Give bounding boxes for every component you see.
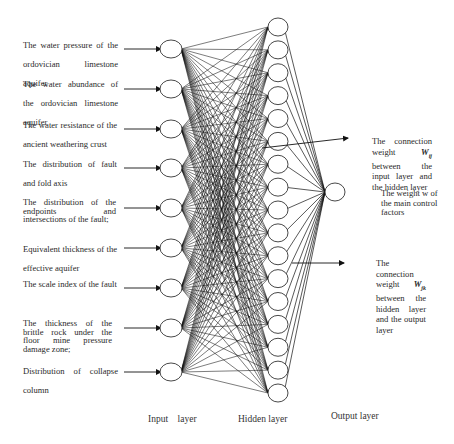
hidden-node: [268, 64, 288, 82]
hidden-node: [268, 361, 288, 379]
input-label-8: The thickness of the brittle rock under …: [23, 319, 112, 353]
input-arrows: [124, 49, 161, 372]
ho-weight-rest: between the hidden layer and the output …: [376, 293, 426, 335]
hidden-node: [268, 155, 288, 173]
output-node: [325, 183, 345, 201]
input-node: [160, 40, 182, 58]
hidden-node: [268, 224, 288, 242]
input-node: [160, 120, 182, 138]
hidden-node: [268, 110, 288, 128]
input-hidden-connections: [181, 27, 268, 393]
input-node: [160, 199, 182, 217]
input-label-7: The scale index of the fault: [23, 279, 123, 290]
input-node: [160, 239, 182, 257]
input-label-6: Equivalent thickness of the effective aq…: [23, 240, 117, 278]
ho-weight-text: The connection weight: [376, 258, 414, 289]
hidden-node: [268, 178, 288, 196]
hidden-node: [268, 87, 288, 105]
output-layer-label: Output layer: [331, 411, 379, 421]
hidden-output-connections: [284, 27, 325, 393]
input-hidden-weight-label: The connection weight Wij between the in…: [372, 136, 432, 192]
input-label-3: The water resistance of the ancient weat…: [23, 116, 117, 154]
hidden-node: [268, 384, 288, 402]
input-node: [160, 319, 182, 337]
neural-network-diagram: The water pressure of the ordovician lim…: [0, 0, 454, 444]
input-label-5: The distribution of the endpoints and in…: [23, 198, 116, 224]
main-control-weight-label: The weight w of the main control factors: [381, 189, 441, 218]
hidden-node: [268, 293, 288, 311]
hidden-node: [268, 247, 288, 265]
hidden-layer-label: Hidden layer: [238, 414, 287, 424]
input-layer-label: Input layer: [148, 414, 197, 424]
input-node: [160, 80, 182, 98]
input-node: [160, 159, 182, 177]
hidden-node: [268, 18, 288, 36]
ho-weight-subscript: jk: [421, 285, 426, 291]
input-node: [160, 363, 182, 381]
hidden-node: [268, 132, 288, 150]
hidden-node: [268, 41, 288, 59]
ih-weight-symbol: W: [421, 147, 429, 157]
hidden-output-weight-label: The connection weight Wjk between the hi…: [376, 258, 426, 335]
hidden-node: [268, 270, 288, 288]
ih-weight-subscript: ij: [429, 152, 432, 158]
input-label-4: The distribution of fault and fold axis: [23, 155, 117, 193]
hidden-node: [268, 201, 288, 219]
input-label-9: Distribution of collapse column: [23, 362, 118, 400]
hidden-node: [268, 315, 288, 333]
input-node: [160, 279, 182, 297]
hidden-node: [268, 338, 288, 356]
